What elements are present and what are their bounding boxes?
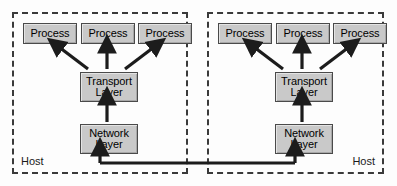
host-label-left: Host (21, 155, 44, 168)
network-layer-box-left: Network Layer (80, 124, 138, 154)
network-layers-diagram: Process Process Process Transport Layer … (0, 0, 397, 186)
transport-layer-box-left: Transport Layer (80, 72, 138, 102)
process-label: Process (88, 28, 127, 40)
network-layer-label-line2: Layer (290, 139, 317, 151)
network-layer-label-line2: Layer (95, 139, 122, 151)
host-boundary-left: Process Process Process Transport Layer … (12, 12, 188, 174)
transport-layer-label-line2: Layer (290, 87, 317, 99)
transport-layer-box-right: Transport Layer (275, 72, 333, 102)
transport-layer-label-line2: Layer (95, 87, 122, 99)
process-box-left-2: Process (81, 23, 135, 44)
network-layer-box-right: Network Layer (275, 124, 333, 154)
process-label: Process (145, 28, 184, 40)
process-label: Process (340, 28, 379, 40)
process-box-right-1: Process (218, 23, 272, 44)
process-label: Process (283, 28, 322, 40)
process-box-left-3: Process (138, 23, 192, 44)
process-box-right-2: Process (276, 23, 330, 44)
host-label-right: Host (352, 155, 375, 168)
process-box-right-3: Process (333, 23, 387, 44)
process-label: Process (225, 28, 264, 40)
process-box-left-1: Process (23, 23, 77, 44)
process-label: Process (30, 28, 69, 40)
host-boundary-right: Process Process Process Transport Layer … (207, 12, 384, 174)
